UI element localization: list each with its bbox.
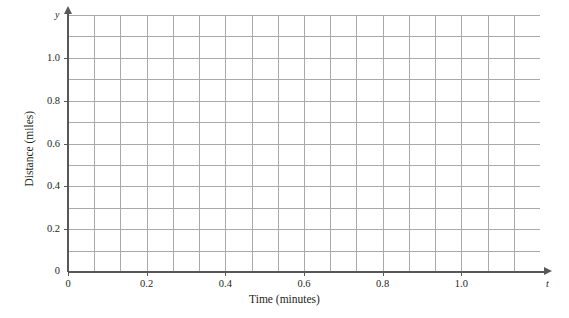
x-axis-tick (147, 272, 148, 276)
x-axis-line (68, 271, 546, 273)
y-axis-tick (64, 58, 68, 59)
y-axis-tick-label: 0.2 (36, 224, 60, 235)
y-axis-title: Distance (miles) (24, 59, 36, 239)
x-axis-tick (304, 272, 305, 276)
y-axis-variable-label: y (55, 10, 59, 20)
x-axis-tick-label: 0.4 (219, 279, 232, 290)
graph-figure: 00.20.40.60.81.000.20.40.60.81.0 t y Tim… (0, 0, 569, 318)
y-axis-line (67, 12, 69, 272)
x-axis-arrow-icon (544, 267, 552, 275)
x-axis-tick-label: 0.6 (297, 279, 310, 290)
y-axis-tick-label: 0.4 (36, 181, 60, 192)
y-axis-tick (64, 186, 68, 187)
x-axis-tick (68, 272, 69, 276)
y-axis-tick (64, 101, 68, 102)
x-axis-title: Time (minutes) (0, 294, 569, 306)
grid-lines (68, 15, 540, 272)
x-axis-tick (225, 272, 226, 276)
y-axis-tick-label: 0 (36, 266, 60, 277)
y-axis-tick (64, 229, 68, 230)
y-axis-tick (64, 144, 68, 145)
x-axis-tick-label: 0 (65, 279, 70, 290)
y-axis-tick-label: 1.0 (36, 53, 60, 64)
plot-area (68, 15, 540, 272)
y-axis-tick-label: 0.8 (36, 95, 60, 106)
x-axis-variable-label: t (546, 279, 549, 289)
y-axis-arrow-icon (64, 6, 72, 14)
x-axis-tick-label: 0.2 (140, 279, 153, 290)
y-axis-tick-label: 0.6 (36, 138, 60, 149)
x-axis-tick (383, 272, 384, 276)
x-axis-tick-label: 1.0 (455, 279, 468, 290)
x-axis-tick-label: 0.8 (376, 279, 389, 290)
x-axis-tick (461, 272, 462, 276)
